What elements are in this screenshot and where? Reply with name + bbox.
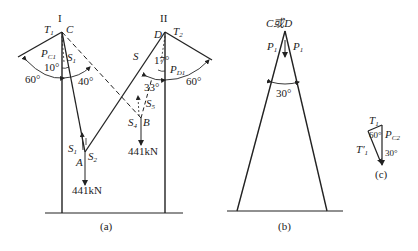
pole-left-label: I [58, 12, 62, 24]
label-s4: S4 [128, 116, 138, 130]
figure-a: I II T1 C D T2 PC1 10° S1 60° 40° S 17° … [18, 12, 212, 233]
mast-lifting-diagram: I II T1 C D T2 PC1 10° S1 60° 40° S 17° … [0, 0, 418, 251]
label-s2: S2 [88, 150, 98, 164]
label-pd1: PD1 [169, 63, 185, 77]
figure-c: T1 60° PC2 T′1 30° (c) [356, 114, 400, 181]
label-t2: T2 [173, 25, 183, 39]
label-apex-c-or-d: C或D [266, 17, 292, 29]
angle-60-left: 60° [25, 73, 40, 85]
label-p1-right: P1 [292, 40, 303, 54]
label-d: D [153, 28, 162, 40]
pole-right-label: II [160, 12, 168, 24]
angle-33: 33° [144, 81, 159, 93]
angle-30-c: 30° [385, 148, 398, 158]
caption-b: (b) [278, 220, 291, 233]
angle-arc-30 [271, 82, 299, 84]
angle-arc-17 [158, 70, 165, 71]
figure-b: C或D P1 P1 30° (b) [227, 17, 343, 233]
caption-a: (a) [100, 220, 113, 233]
angle-30-b: 30° [276, 87, 291, 99]
label-t1-c: T1 [369, 114, 379, 128]
angle-60-c: 60° [369, 130, 382, 140]
label-s: S [133, 50, 139, 62]
label-pc2: PC2 [384, 128, 400, 142]
load-b-label: 441kN [128, 145, 158, 157]
s4-arrow-b [138, 96, 139, 116]
label-s5: S5 [146, 97, 156, 111]
angle-arc-right [146, 76, 165, 80]
angle-60-right: 60° [186, 75, 201, 87]
label-c: C [66, 23, 74, 35]
cable-c-a [62, 32, 85, 152]
leg-right [285, 31, 327, 211]
label-a: A [75, 156, 83, 168]
label-p1-left: P1 [266, 40, 277, 54]
angle-40: 40° [78, 75, 93, 87]
angle-arc-10 [62, 67, 69, 68]
label-s1-top: S1 [67, 51, 76, 65]
label-pc1: PC1 [40, 47, 56, 61]
load-a-label: 441kN [72, 184, 102, 196]
s1-arrow-a [82, 133, 83, 150]
label-s1: S1 [68, 142, 77, 156]
cable-c-b-dashed [62, 32, 141, 118]
label-t1-prime: T′1 [356, 143, 368, 157]
angle-10: 10° [44, 61, 59, 73]
label-b: B [143, 116, 150, 128]
caption-c: (c) [375, 168, 388, 181]
leg-left [237, 31, 285, 211]
angle-17: 17° [154, 54, 169, 66]
label-t1: T1 [44, 23, 54, 37]
